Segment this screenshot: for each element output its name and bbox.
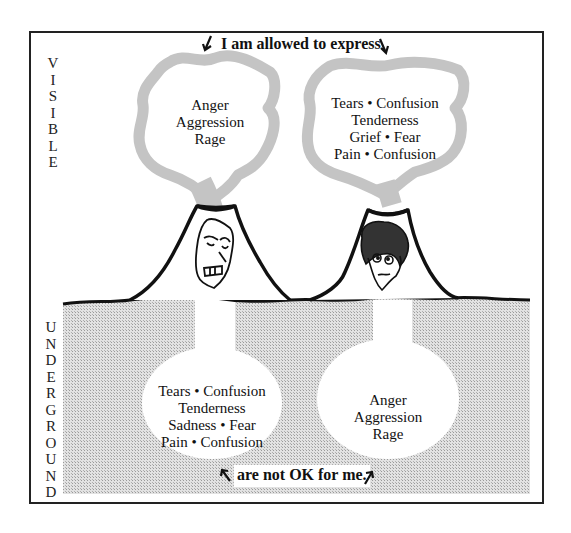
letter: R bbox=[46, 418, 56, 435]
letter: D bbox=[46, 484, 57, 501]
emotion-text: Tenderness bbox=[320, 112, 450, 129]
emotion-text: Anger bbox=[338, 392, 438, 409]
emotion-text: Anger bbox=[160, 97, 260, 114]
letter: G bbox=[46, 402, 57, 419]
emotion-text: Tenderness bbox=[147, 400, 277, 417]
emotion-text: Tears • Confusion bbox=[147, 383, 277, 400]
underground-label: U N D E R G R O U N D bbox=[43, 319, 59, 501]
emotion-text: Aggression bbox=[160, 114, 260, 131]
emotion-text: Aggression bbox=[338, 409, 438, 426]
letter: R bbox=[46, 385, 56, 402]
emotion-text: Grief • Fear bbox=[320, 129, 450, 146]
emotion-text: Tears • Confusion bbox=[320, 95, 450, 112]
letter: L bbox=[48, 138, 57, 155]
arrow-top-left-icon bbox=[203, 36, 211, 50]
letter: I bbox=[51, 105, 56, 122]
sad-volcano bbox=[310, 210, 458, 300]
letter: I bbox=[51, 72, 56, 89]
top-caption: I am allowed to express bbox=[221, 35, 381, 53]
bottom-caption: are not OK for me. bbox=[237, 466, 367, 484]
letter: B bbox=[48, 121, 58, 138]
visible-emotions-right: Tears • Confusion Tenderness Grief • Fea… bbox=[320, 95, 450, 163]
letter: U bbox=[46, 451, 57, 468]
emotion-text: Pain • Confusion bbox=[320, 146, 450, 163]
emotion-text: Sadness • Fear bbox=[147, 417, 277, 434]
arrow-top-right-icon bbox=[380, 39, 388, 53]
letter: E bbox=[48, 154, 57, 171]
letter: E bbox=[46, 369, 55, 386]
angry-volcano bbox=[130, 206, 290, 300]
underground-emotions-right: Anger Aggression Rage bbox=[338, 392, 438, 443]
letter: V bbox=[48, 55, 59, 72]
letter: D bbox=[46, 352, 57, 369]
letter: U bbox=[46, 319, 57, 336]
visible-emotions-left: Anger Aggression Rage bbox=[160, 97, 260, 148]
underground-emotions-left: Tears • Confusion Tenderness Sadness • F… bbox=[147, 383, 277, 451]
visible-label: V I S I B L E bbox=[46, 55, 60, 171]
letter: S bbox=[49, 88, 57, 105]
emotion-text: Pain • Confusion bbox=[147, 434, 277, 451]
underground-region bbox=[63, 296, 530, 494]
volcano-scene bbox=[0, 0, 571, 533]
emotion-text: Rage bbox=[338, 426, 438, 443]
emotion-text: Rage bbox=[160, 131, 260, 148]
letter: N bbox=[46, 336, 57, 353]
letter: O bbox=[46, 435, 57, 452]
letter: N bbox=[46, 468, 57, 485]
